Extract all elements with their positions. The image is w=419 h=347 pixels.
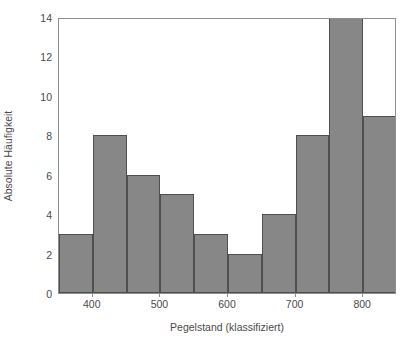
y-axis-tick-label: 6 bbox=[46, 170, 52, 182]
x-axis-tick-mark bbox=[295, 293, 296, 297]
x-axis-tick-label: 700 bbox=[286, 298, 304, 310]
x-axis-tick-mark bbox=[159, 293, 160, 297]
x-axis-tick-mark bbox=[362, 293, 363, 297]
histogram-bar bbox=[59, 234, 93, 293]
y-axis-tick-label: 0 bbox=[46, 288, 52, 300]
histogram-bar bbox=[160, 194, 194, 293]
histogram-bar bbox=[93, 135, 127, 293]
x-axis-label: Pegelstand (klassifiziert) bbox=[170, 321, 284, 333]
x-axis-tick-mark bbox=[92, 293, 93, 297]
histogram-bar bbox=[127, 175, 161, 293]
histogram-bar bbox=[296, 135, 330, 293]
x-axis-tick-mark bbox=[227, 293, 228, 297]
y-axis-tick-label: 4 bbox=[46, 209, 52, 221]
histogram-bar bbox=[194, 234, 228, 293]
x-axis-tick-label: 500 bbox=[151, 298, 169, 310]
x-axis-tick-label: 800 bbox=[353, 298, 371, 310]
histogram-figure: Absolute Häufigkeit 02468101214 40050060… bbox=[0, 0, 419, 347]
y-axis-tick-label: 12 bbox=[40, 51, 52, 63]
x-axis-tick-label: 600 bbox=[218, 298, 236, 310]
plot-area bbox=[58, 18, 396, 294]
x-axis-tick-label: 400 bbox=[83, 298, 101, 310]
histogram-bar bbox=[228, 254, 262, 293]
y-axis-label: Absolute Häufigkeit bbox=[2, 111, 14, 201]
histogram-bar bbox=[329, 18, 363, 293]
y-axis-tick-label: 2 bbox=[46, 249, 52, 261]
y-axis-tick-label: 8 bbox=[46, 130, 52, 142]
bar-series bbox=[59, 19, 395, 293]
histogram-bar bbox=[262, 214, 296, 293]
histogram-bar bbox=[363, 116, 396, 293]
y-axis-tick-label: 14 bbox=[40, 12, 52, 24]
y-axis-tick-label: 10 bbox=[40, 91, 52, 103]
